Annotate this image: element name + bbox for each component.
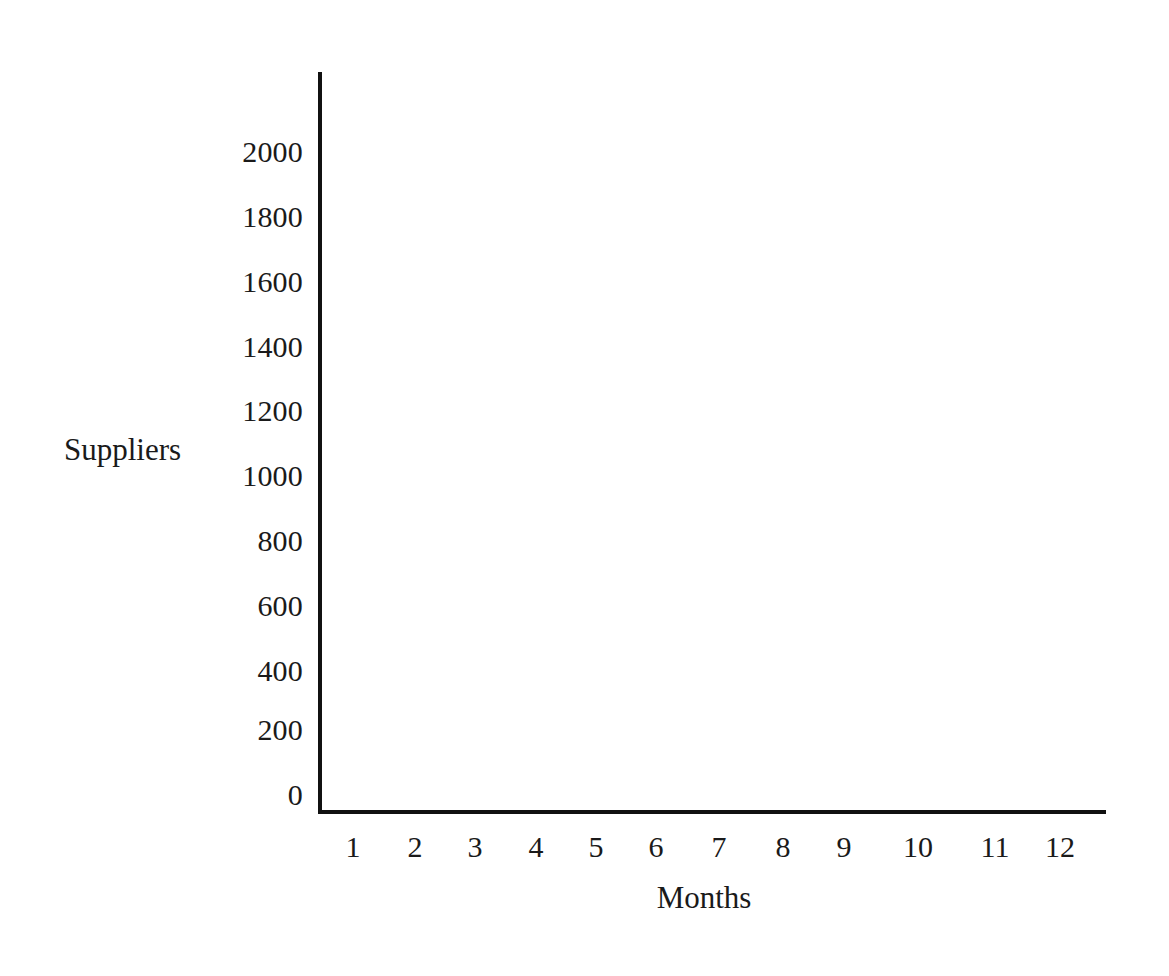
- x-tick-label: 10: [903, 832, 933, 862]
- x-tick-label: 12: [1045, 832, 1075, 862]
- x-axis-line: [320, 810, 1106, 814]
- x-tick-label: 1: [346, 832, 361, 862]
- x-tick-label: 6: [649, 832, 664, 862]
- y-tick-label: 200: [150, 715, 303, 745]
- x-tick-label: 8: [776, 832, 791, 862]
- x-tick-label: 7: [712, 832, 727, 862]
- y-tick-label: 600: [150, 591, 303, 621]
- y-tick-label: 2000: [150, 137, 303, 167]
- x-axis-title: Months: [657, 880, 752, 916]
- x-tick-label: 4: [529, 832, 544, 862]
- y-tick-label: 1600: [150, 267, 303, 297]
- y-axis-tick-labels: 2000 1800 1600 1400 1200 1000 800 600 40…: [150, 0, 303, 976]
- x-tick-label: 2: [408, 832, 423, 862]
- y-tick-label: 1800: [150, 202, 303, 232]
- y-tick-label: 0: [150, 780, 303, 810]
- y-tick-label: 800: [150, 526, 303, 556]
- x-tick-label: 3: [468, 832, 483, 862]
- x-axis-tick-labels: 1 2 3 4 5 6 7 8 9 10 11 12: [0, 832, 1169, 872]
- plot-area: [322, 72, 1106, 810]
- y-tick-label: 1400: [150, 332, 303, 362]
- chart-figure: 2000 1800 1600 1400 1200 1000 800 600 40…: [0, 0, 1169, 976]
- x-tick-label: 9: [837, 832, 852, 862]
- y-axis-title: Suppliers: [64, 432, 181, 468]
- y-tick-label: 1200: [150, 396, 303, 426]
- x-tick-label: 5: [589, 832, 604, 862]
- y-tick-label: 400: [150, 656, 303, 686]
- x-tick-label: 11: [981, 832, 1010, 862]
- y-axis-line: [318, 72, 322, 814]
